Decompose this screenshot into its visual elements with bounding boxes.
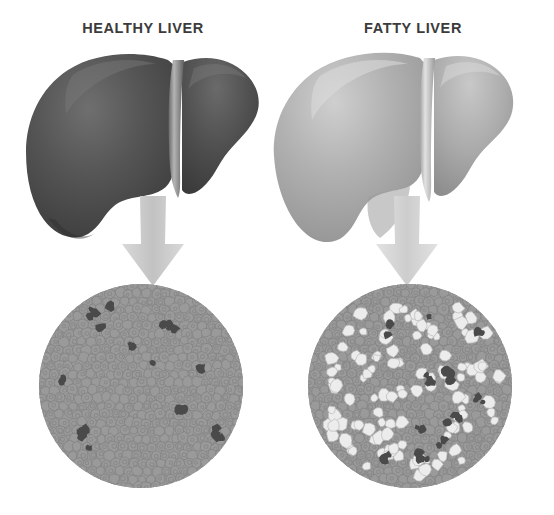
hepatocyte-nucleus bbox=[432, 486, 436, 490]
hepatocyte-nucleus bbox=[505, 340, 509, 344]
hepatocyte-nucleus bbox=[63, 307, 68, 312]
hepatocyte-nucleus bbox=[237, 342, 240, 345]
fatty-liver-tissue-circle bbox=[307, 283, 513, 489]
hepatocyte bbox=[206, 305, 216, 315]
hepatocyte bbox=[180, 336, 189, 344]
hepatocyte bbox=[231, 409, 240, 419]
hepatocyte bbox=[91, 476, 101, 485]
hepatocyte-nucleus bbox=[232, 332, 235, 335]
hepatocyte bbox=[197, 467, 206, 476]
hepatocyte-nucleus bbox=[423, 486, 426, 489]
down-arrow-fatty bbox=[372, 196, 442, 288]
hepatocyte-nucleus bbox=[479, 308, 484, 313]
fat-droplet bbox=[457, 373, 465, 381]
hepatocyte bbox=[489, 313, 498, 321]
hepatocyte-nucleus bbox=[345, 299, 349, 303]
hepatocyte-nucleus bbox=[89, 291, 94, 296]
hepatocyte bbox=[504, 338, 514, 347]
hepatocyte bbox=[65, 394, 74, 402]
hepatocyte-nucleus bbox=[50, 332, 53, 335]
hepatocyte bbox=[511, 369, 523, 379]
hepatocyte-nucleus bbox=[228, 438, 232, 442]
hepatocyte bbox=[365, 320, 374, 328]
hepatocyte-nucleus bbox=[200, 469, 204, 473]
hepatocyte bbox=[32, 369, 40, 379]
hepatocyte bbox=[37, 345, 46, 355]
hepatocyte-nucleus bbox=[455, 477, 459, 481]
hepatocyte-nucleus bbox=[94, 478, 99, 483]
hepatocyte bbox=[215, 450, 224, 459]
hepatocyte bbox=[442, 474, 454, 485]
hepatocyte bbox=[310, 417, 321, 427]
hepatocyte bbox=[324, 313, 333, 322]
hepatocyte-nucleus bbox=[243, 365, 247, 369]
hepatocyte bbox=[60, 304, 71, 314]
healthy-liver-left-lobe bbox=[182, 58, 259, 194]
hepatocyte bbox=[452, 474, 462, 485]
hepatocyte-nucleus bbox=[466, 300, 469, 303]
hepatocyte-nucleus bbox=[112, 285, 115, 288]
hepatocyte-nucleus bbox=[332, 454, 335, 457]
hepatocyte-nucleus bbox=[380, 284, 385, 289]
hepatocyte bbox=[466, 466, 477, 477]
fat-droplet bbox=[373, 355, 380, 362]
hepatocyte bbox=[40, 420, 50, 429]
hepatocyte bbox=[188, 290, 197, 298]
panel-title-healthy: HEALTHY LIVER bbox=[28, 20, 258, 36]
hepatocyte bbox=[49, 433, 59, 443]
hepatocyte-nucleus bbox=[474, 300, 478, 304]
hepatocyte bbox=[76, 465, 86, 477]
hepatocyte-nucleus bbox=[437, 282, 441, 286]
hepatocyte bbox=[222, 443, 231, 453]
hepatocyte bbox=[309, 354, 318, 363]
hepatocyte-nucleus bbox=[444, 283, 449, 288]
hepatocyte-nucleus bbox=[452, 291, 456, 295]
hepatocyte-nucleus bbox=[360, 290, 363, 293]
fat-droplet bbox=[388, 359, 400, 369]
hepatocyte bbox=[234, 339, 244, 347]
hepatocyte bbox=[147, 377, 156, 387]
hepatocyte-nucleus bbox=[303, 374, 307, 378]
hepatocyte bbox=[305, 345, 315, 354]
hepatocyte-nucleus bbox=[210, 308, 213, 311]
hepatocyte bbox=[405, 361, 416, 372]
hepatocyte-nucleus bbox=[192, 292, 195, 295]
hepatocyte bbox=[106, 353, 116, 362]
hepatocyte-nucleus bbox=[35, 373, 38, 376]
fat-droplet bbox=[328, 406, 335, 414]
hepatocyte bbox=[300, 371, 309, 379]
hepatocyte-nucleus bbox=[168, 284, 172, 288]
hepatocyte bbox=[165, 442, 174, 450]
fat-droplet bbox=[359, 328, 366, 335]
hepatocyte-nucleus bbox=[350, 469, 353, 472]
hepatocyte-nucleus bbox=[224, 446, 229, 451]
hepatocyte-nucleus bbox=[307, 349, 310, 352]
hepatocyte-nucleus bbox=[386, 487, 389, 490]
hepatocyte bbox=[98, 482, 107, 491]
hepatocyte bbox=[54, 314, 63, 323]
hepatocyte bbox=[239, 409, 249, 420]
hepatocyte-nucleus bbox=[470, 469, 474, 473]
hepatocyte bbox=[114, 369, 123, 379]
fat-droplet bbox=[385, 419, 395, 428]
hepatocyte bbox=[457, 433, 466, 443]
hepatocyte-nucleus bbox=[516, 373, 519, 376]
hepatocyte-nucleus bbox=[79, 470, 83, 474]
hepatocyte bbox=[489, 443, 499, 452]
hepatocyte bbox=[143, 467, 152, 476]
hepatocyte bbox=[502, 419, 514, 429]
hepatocyte-nucleus bbox=[182, 291, 185, 294]
hepatocyte bbox=[508, 376, 517, 386]
hepatocyte-nucleus bbox=[85, 476, 90, 481]
hepatocyte-nucleus bbox=[335, 462, 339, 466]
hepatocyte bbox=[54, 409, 63, 418]
hepatocyte bbox=[82, 475, 91, 483]
hepatocyte bbox=[333, 460, 342, 469]
fatty-liver-left-lobe bbox=[434, 56, 513, 196]
hepatocyte bbox=[302, 354, 312, 363]
down-arrow-healthy bbox=[118, 196, 188, 288]
hepatocyte-nucleus bbox=[323, 324, 327, 328]
hepatocyte-nucleus bbox=[391, 283, 394, 286]
hepatocyte bbox=[142, 352, 152, 362]
hepatocyte bbox=[420, 484, 429, 492]
